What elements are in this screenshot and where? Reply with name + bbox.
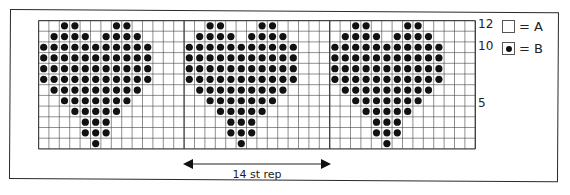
stitch-dot (394, 86, 401, 93)
stitch-dot (82, 129, 89, 136)
stitch-dot (248, 33, 255, 40)
stitch-dot (238, 108, 245, 115)
stitch-dot (269, 65, 276, 72)
stitch-dot (373, 86, 380, 93)
stitch-dot (373, 33, 380, 40)
stitch-dot (51, 86, 58, 93)
stitch-dot (269, 33, 276, 40)
stitch-dot (71, 86, 78, 93)
stitch-dot (352, 44, 359, 51)
stitch-dot (425, 54, 432, 61)
stitch-dot (217, 97, 224, 104)
stitch-dot (363, 44, 370, 51)
stitch-dot (196, 76, 203, 83)
stitch-dot (92, 54, 99, 61)
stitch-dot (290, 54, 297, 61)
stitch-dot (123, 44, 130, 51)
stitch-dot (352, 97, 359, 104)
stitch-dot (61, 76, 68, 83)
stitch-dot (415, 22, 422, 29)
stitch-dot (51, 33, 58, 40)
stitch-dot (352, 22, 359, 29)
stitch-dot (383, 140, 390, 147)
stitch-dot (394, 108, 401, 115)
stitch-dot (207, 76, 214, 83)
stitch-dot (71, 97, 78, 104)
stitch-dot (61, 22, 68, 29)
stitch-dot (217, 33, 224, 40)
stitch-dot (227, 97, 234, 104)
stitch-dot (259, 44, 266, 51)
stitch-dot (113, 76, 120, 83)
legend-item-a: = A (502, 19, 543, 34)
stitch-dot (227, 119, 234, 126)
stitch-dot (134, 44, 141, 51)
stitch-dot (113, 97, 120, 104)
stitch-dot (352, 54, 359, 61)
stitch-dot (113, 65, 120, 72)
stitch-dot (290, 65, 297, 72)
stitch-dot (404, 65, 411, 72)
stitch-dot (113, 54, 120, 61)
stitch-dot (373, 44, 380, 51)
stitch-dot (51, 65, 58, 72)
stitch-dot (238, 65, 245, 72)
stitch-dot (92, 86, 99, 93)
stitch-dot (217, 54, 224, 61)
stitch-dot (394, 54, 401, 61)
stitch-dot (51, 44, 58, 51)
stitch-dot (103, 119, 110, 126)
stitch-dot (207, 97, 214, 104)
stitch-dot (383, 44, 390, 51)
stitch-dot (404, 22, 411, 29)
stitch-dot (415, 76, 422, 83)
stitch-dot (40, 54, 47, 61)
stitch-dot (363, 33, 370, 40)
stitch-dot (394, 44, 401, 51)
stitch-dot (248, 65, 255, 72)
stitch-dot (259, 54, 266, 61)
stitch-dot (82, 108, 89, 115)
stitch-dot (248, 97, 255, 104)
stitch-dot (238, 76, 245, 83)
stitch-dot (269, 54, 276, 61)
stitch-dot (123, 33, 130, 40)
stitch-dot (425, 76, 432, 83)
stitch-dot (71, 108, 78, 115)
stitch-dot (331, 76, 338, 83)
stitch-dot (383, 108, 390, 115)
row-label-12: 12 (478, 18, 493, 30)
stitch-dot (207, 33, 214, 40)
stitch-dot (373, 65, 380, 72)
stitch-dot (186, 76, 193, 83)
stitch-dot (82, 86, 89, 93)
stitch-dot (227, 86, 234, 93)
legend-label-b: = B (519, 41, 543, 56)
stitch-dot (217, 65, 224, 72)
stitch-dot (103, 129, 110, 136)
stitch-dot (217, 44, 224, 51)
stitch-dot (144, 76, 151, 83)
stitch-dot (196, 54, 203, 61)
stitch-dot (435, 54, 442, 61)
stitch-dot (342, 54, 349, 61)
stitch-dot (238, 86, 245, 93)
stitch-dot (103, 76, 110, 83)
stitch-dot (373, 108, 380, 115)
stitch-dot (71, 54, 78, 61)
stitch-dot (82, 65, 89, 72)
stitch-dot (227, 108, 234, 115)
stitch-dot (404, 108, 411, 115)
stitch-dot (144, 54, 151, 61)
stitch-dot (238, 97, 245, 104)
stitch-dot (123, 97, 130, 104)
stitch-dot (207, 86, 214, 93)
stitch-dot (248, 54, 255, 61)
stitch-dot (259, 33, 266, 40)
row-label-5: 5 (478, 97, 486, 109)
stitch-dot (394, 97, 401, 104)
stitch-dot (259, 86, 266, 93)
stitch-dot (134, 65, 141, 72)
stitch-dot (342, 65, 349, 72)
stitch-dot (61, 97, 68, 104)
